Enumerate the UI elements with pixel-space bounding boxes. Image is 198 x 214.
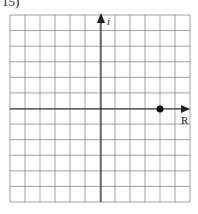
plotted-point xyxy=(157,106,164,113)
imaginary-axis-label: i xyxy=(107,15,110,27)
real-axis-label: R xyxy=(181,114,188,126)
arrow-up-icon xyxy=(97,13,105,23)
complex-plane-grid xyxy=(0,0,198,214)
arrow-right-icon xyxy=(181,105,190,113)
